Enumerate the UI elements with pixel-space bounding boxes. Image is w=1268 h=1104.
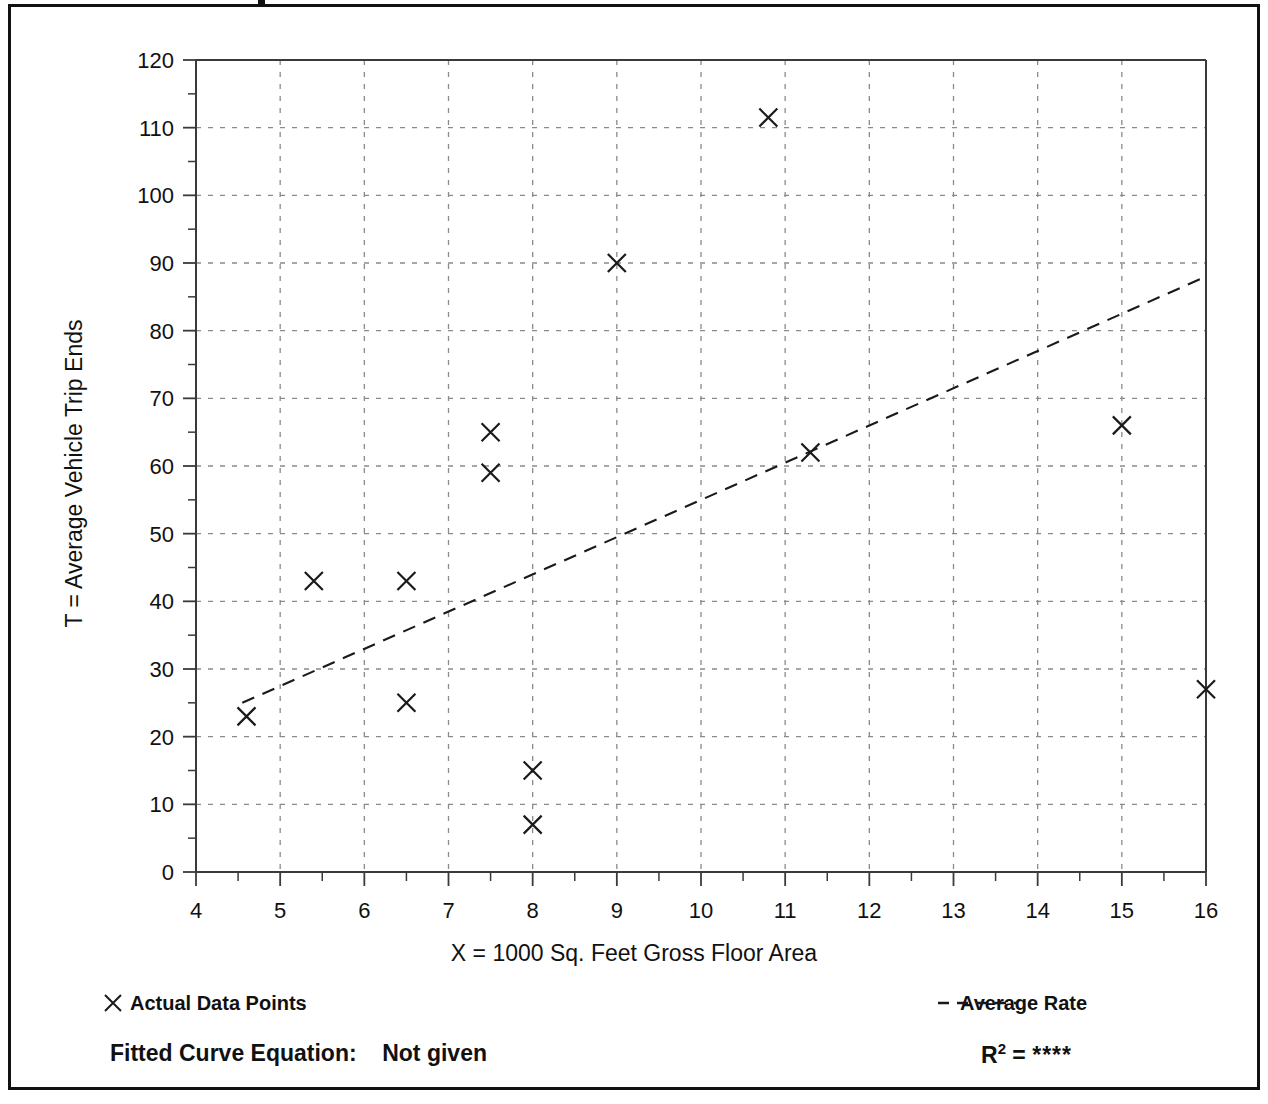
data-point-marker: [1113, 416, 1131, 434]
page-root: 0102030405060708090100110120456789101112…: [0, 0, 1268, 1104]
r-squared-label: R: [981, 1042, 998, 1068]
x-tick-label: 6: [358, 898, 370, 923]
x-marker-icon: [1113, 416, 1131, 434]
x-marker-icon: [238, 707, 256, 725]
x-tick-label: 11: [774, 898, 797, 923]
data-point-marker: [482, 423, 500, 441]
chart-legend: Actual Data Points Average Rate: [0, 985, 1268, 1029]
data-point-marker: [305, 572, 323, 590]
x-tick-label: 15: [1110, 898, 1134, 923]
x-tick-label: 14: [1025, 898, 1049, 923]
x-marker-icon: [482, 464, 500, 482]
data-point-marker: [397, 572, 415, 590]
average-rate-trend-line: [242, 277, 1206, 703]
x-tick-label: 16: [1194, 898, 1218, 923]
data-point-marker: [482, 464, 500, 482]
x-axis-title: X = 1000 Sq. Feet Gross Floor Area: [0, 940, 1268, 967]
scatter-chart: 0102030405060708090100110120456789101112…: [0, 0, 1268, 1104]
x-marker-icon: [305, 572, 323, 590]
data-point-marker: [759, 109, 777, 127]
r-squared-annotation: R2 = ****: [981, 1040, 1072, 1069]
data-point-marker: [524, 762, 542, 780]
legend-item-actual-data-points: Actual Data Points: [103, 988, 307, 1018]
y-tick-label: 10: [150, 792, 174, 817]
r-squared-equals: =: [1012, 1042, 1025, 1068]
data-point-marker: [238, 707, 256, 725]
r-squared-exponent: 2: [998, 1040, 1006, 1057]
y-tick-label: 0: [162, 860, 174, 885]
y-tick-label: 20: [150, 725, 174, 750]
fitted-curve-equation: Fitted Curve Equation: Not given: [110, 1040, 487, 1067]
y-tick-label: 50: [150, 522, 174, 547]
x-tick-label: 10: [689, 898, 713, 923]
y-tick-label: 70: [150, 386, 174, 411]
data-point-marker: [397, 694, 415, 712]
y-tick-label: 80: [150, 319, 174, 344]
y-tick-label: 40: [150, 589, 174, 614]
x-tick-label: 4: [190, 898, 202, 923]
r-squared-value: ****: [1032, 1042, 1072, 1068]
x-marker-icon: [397, 572, 415, 590]
x-tick-label: 5: [274, 898, 286, 923]
y-tick-label: 30: [150, 657, 174, 682]
plot-canvas: 0102030405060708090100110120456789101112…: [0, 0, 1268, 1104]
y-tick-label: 60: [150, 454, 174, 479]
y-tick-label: 120: [137, 48, 174, 73]
x-marker-icon: [397, 694, 415, 712]
fitted-curve-label: Fitted Curve Equation:: [110, 1040, 357, 1066]
x-tick-label: 7: [442, 898, 454, 923]
legend-label-actual-data-points: Actual Data Points: [130, 992, 307, 1015]
x-tick-label: 13: [941, 898, 965, 923]
x-marker-icon: [482, 423, 500, 441]
x-tick-label: 8: [527, 898, 539, 923]
y-tick-label: 100: [137, 183, 174, 208]
fitted-curve-value: Not given: [382, 1040, 487, 1066]
x-tick-label: 12: [857, 898, 881, 923]
chart-annotations: Fitted Curve Equation: Not given R2 = **…: [0, 1036, 1268, 1082]
legend-item-average-rate: Average Rate: [940, 988, 1087, 1018]
x-marker-icon: [524, 762, 542, 780]
y-tick-label: 90: [150, 251, 174, 276]
x-tick-label: 9: [611, 898, 623, 923]
y-axis-title: T = Average Vehicle Trip Ends: [61, 194, 88, 754]
y-tick-label: 110: [139, 116, 174, 141]
x-marker-icon: [759, 109, 777, 127]
